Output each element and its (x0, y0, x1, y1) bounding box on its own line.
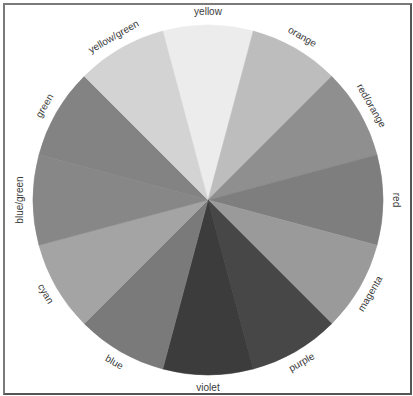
label-violet: violet (196, 382, 220, 393)
label-blue-green: blue/green (14, 176, 25, 223)
label-red: red (391, 193, 402, 207)
label-orange: orange (286, 24, 319, 49)
label-green: green (33, 92, 55, 120)
wheel-wedges (33, 25, 383, 375)
label-yellow: yellow (194, 6, 223, 17)
color-wheel: yelloworangered/orangeredmagentapurplevi… (0, 0, 413, 396)
label-blue: blue (103, 353, 125, 372)
label-cyan: cyan (36, 282, 56, 306)
